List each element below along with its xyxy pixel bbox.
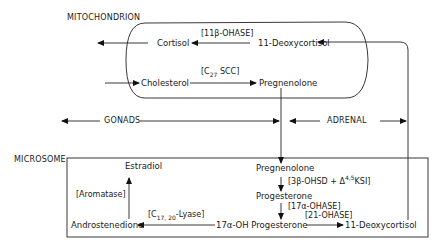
enzyme-c17-20-lyase: [C17, 20-Lyase] [148,211,204,219]
node-androstenedione: Androstenedione [71,221,143,230]
gonads-label: GONADS [104,117,140,125]
node-progesterone: Progesterone [256,192,312,201]
adrenal-label: ADRENAL [327,117,367,125]
microsome-label: MICROSOME [14,156,66,164]
node-11-deoxycortisol-micro: 11-Deoxycortisol [345,221,417,230]
enzyme-3b-hsd-ksi: [3β-OHSD + Δ4,5KSI] [288,178,370,186]
node-pregnenolone-micro: Pregnenolone [256,164,314,173]
enzyme-c27-scc: [C27 SCC] [201,68,239,76]
node-pregnenolone-mito: Pregnenolone [259,79,317,88]
node-11-deoxycortisol-mito: 11-Deoxycortisol [258,39,330,48]
enzyme-11b-hydroxylase: [11β-OHASE] [201,30,253,38]
enzyme-aromatase: [Aromatase] [76,191,126,199]
enzyme-17a-hydroxylase: [17α-OHASE] [288,203,341,211]
node-estradiol: Estradiol [125,162,162,171]
enzyme-21-hydroxylase: [21-OHASE] [305,212,352,220]
node-cortisol: Cortisol [157,39,189,48]
mitochondrion-label: MITOCHONDRION [67,14,140,22]
node-cholesterol: Cholesterol [141,79,189,88]
node-17a-oh-progesterone: 17α-OH Progesterone [216,221,308,230]
